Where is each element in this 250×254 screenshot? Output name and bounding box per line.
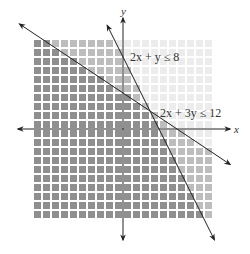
- inequality-label-1: 2x + y ≤ 8: [130, 50, 179, 64]
- inequality-label-2: 2x + 3y ≤ 12: [160, 106, 221, 120]
- inequality-graph: x y 2x + y ≤ 8 2x + 3y ≤ 12: [0, 0, 250, 254]
- x-axis-label: x: [233, 123, 239, 135]
- y-axis-label: y: [120, 5, 126, 17]
